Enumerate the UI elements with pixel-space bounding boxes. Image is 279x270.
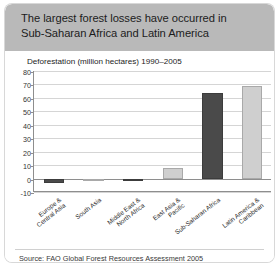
x-axis-label-0: Europe &Central Asia: [31, 196, 67, 229]
x-axis-label-1: South Asia: [73, 196, 102, 221]
card-body: Deforestation (million hectares) 1990–20…: [5, 51, 274, 262]
y-tick-label-60: 60: [23, 94, 31, 103]
y-tick-label-30: 30: [23, 135, 31, 144]
y-tick-label--10: -10: [21, 189, 31, 198]
x-axis-label-2: Middle East &North Africa: [106, 196, 146, 232]
y-tick-label-20: 20: [23, 148, 31, 157]
bar-1: [83, 179, 104, 182]
y-tick-label-10: 10: [23, 162, 31, 171]
plot-region: 80706050403020100-10: [33, 71, 271, 192]
source-note: Source: FAO Global Forest Resources Asse…: [19, 254, 203, 262]
y-tick-label-40: 40: [23, 121, 31, 130]
card-header: The largest forest losses have occurred …: [5, 4, 274, 51]
y-tick-label-50: 50: [23, 108, 31, 117]
bar-3: [163, 168, 184, 179]
bar-5: [242, 86, 263, 179]
bar-2: [123, 179, 144, 182]
chart-card: The largest forest losses have occurred …: [5, 4, 274, 262]
y-tick-mark--10: [31, 193, 34, 194]
source-divider: [15, 249, 264, 250]
x-axis-label-line1-1: South Asia: [73, 196, 101, 220]
bar-series: [34, 71, 271, 191]
gridline--10: -10: [34, 192, 271, 193]
y-tick-label-70: 70: [23, 81, 31, 90]
page-title: The largest forest losses have occurred …: [21, 11, 264, 41]
y-tick-label-80: 80: [23, 68, 31, 77]
card-title-line-2: Sub-Saharan Africa and Latin America: [21, 26, 264, 41]
card-title-line-1: The largest forest losses have occurred …: [21, 11, 264, 26]
bar-0: [44, 179, 65, 183]
x-axis-label-5: Latin America &Caribbean: [221, 196, 265, 235]
chart-area: 80706050403020100-10 Europe &Central Asi…: [5, 51, 274, 262]
bar-4: [202, 93, 223, 179]
